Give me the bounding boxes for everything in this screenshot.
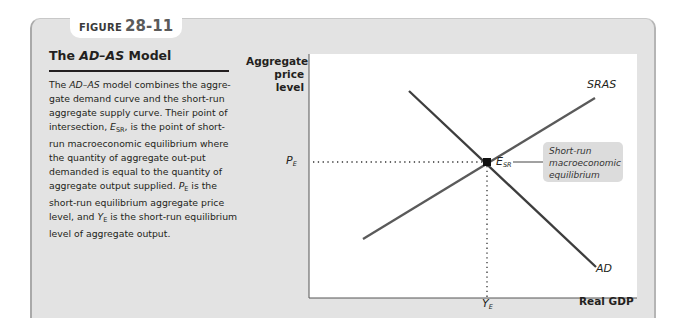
callout-line: Short-run [549,145,617,157]
x-axis-label: Real GDP [579,295,634,307]
ad-label: AD [596,262,612,275]
equilibrium-callout: Short-run macroeconomic equilibrium [543,142,623,182]
sras-label: SRAS [587,78,616,91]
ye-label: YE [482,297,493,311]
equilibrium-point [483,158,491,166]
pe-label: PE [286,154,297,168]
callout-line: equilibrium [549,169,617,181]
callout-line: macroeconomic [549,157,617,169]
esr-label: ESR [496,155,512,169]
